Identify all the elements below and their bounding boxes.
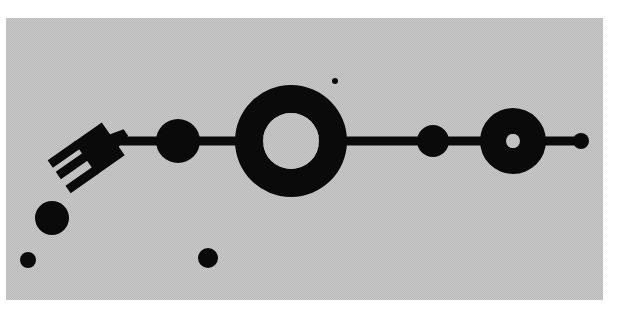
left-circle — [35, 201, 69, 235]
bottom-dot — [198, 248, 218, 268]
circle-a — [156, 119, 200, 163]
small-ring-hole — [506, 134, 520, 148]
end-dot — [573, 133, 589, 149]
geometric-artwork — [0, 0, 624, 319]
large-ring-hole — [263, 113, 319, 169]
tiny-dot — [332, 78, 338, 84]
circle-b — [417, 125, 449, 157]
corner-dot — [20, 252, 36, 268]
